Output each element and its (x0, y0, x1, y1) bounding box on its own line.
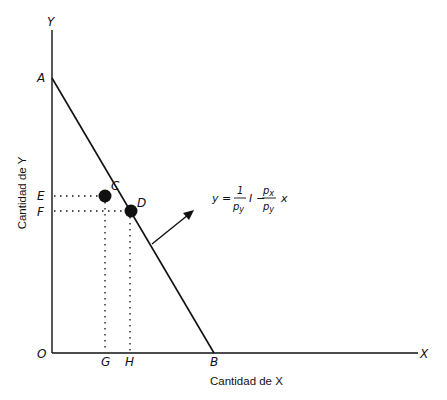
label-B: B (210, 355, 218, 369)
label-C: C (111, 179, 120, 193)
x-axis-title: Cantidad de X (210, 375, 283, 387)
label-E: E (37, 189, 45, 203)
point-D-marker (125, 205, 138, 218)
x-axis-symbol: X (419, 347, 429, 361)
y-axis-title: Cantidad de Y (16, 156, 28, 229)
budget-equation: y = 1 py I − px py x (211, 185, 288, 214)
equation-pointer (152, 215, 188, 244)
point-C-marker (99, 190, 112, 203)
eq-lhs: y = (211, 192, 231, 205)
label-G: G (101, 355, 110, 369)
budget-line-diagram: Y X O A E F C D G H B Cantidad de X Cant… (0, 0, 447, 400)
label-D: D (137, 196, 146, 210)
eq-frac2-den: py (262, 201, 274, 214)
y-axis-symbol: Y (47, 15, 56, 29)
label-H: H (125, 355, 134, 369)
eq-frac1-num: 1 (237, 185, 243, 196)
label-A: A (36, 71, 45, 85)
eq-income: I (249, 192, 252, 205)
origin-label: O (37, 347, 46, 361)
label-F: F (37, 205, 45, 219)
eq-frac1-den: py (232, 201, 244, 214)
eq-var: x (280, 192, 288, 205)
